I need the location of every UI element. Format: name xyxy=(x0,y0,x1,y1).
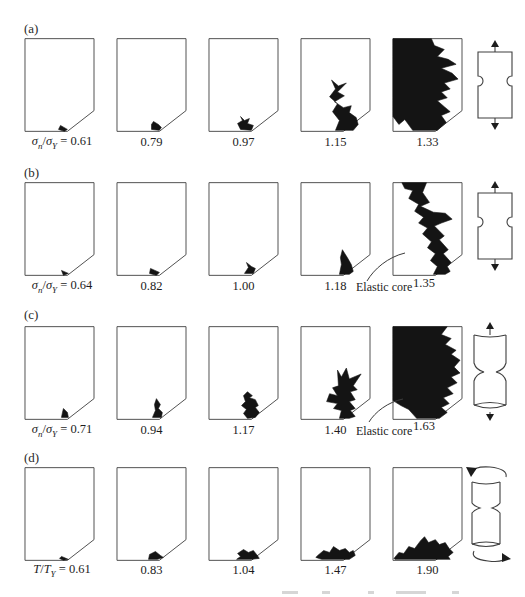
notched-specimen-outline xyxy=(117,183,186,276)
notched-round-bar-torsion-icon xyxy=(464,463,520,565)
down-arrow-icon xyxy=(486,414,494,421)
load-ratio-value: 0.83 xyxy=(116,563,187,578)
notched-specimen-outline xyxy=(301,327,370,420)
panel-b2 xyxy=(116,181,187,277)
double-notched-plate-tension-icon xyxy=(473,180,517,274)
load-ratio-value: 1.47 xyxy=(300,563,371,578)
load-ratio-label-d: T/TY = 0.61 xyxy=(10,562,114,577)
cut-off-caption-mark xyxy=(322,591,330,594)
panel-a2 xyxy=(116,37,187,133)
cut-off-caption-mark xyxy=(396,591,426,594)
torsion-arrowhead-top xyxy=(466,467,477,477)
load-ratio-value: 1.17 xyxy=(208,423,279,438)
notched-specimen-outline xyxy=(209,468,278,561)
panel-c3 xyxy=(208,325,279,421)
torsion-arrowhead-bottom xyxy=(502,553,511,562)
load-ratio-value: 1.33 xyxy=(392,135,463,150)
double-notched-plate-tension-icon xyxy=(473,39,517,133)
panel-a4 xyxy=(300,37,371,133)
row-label-d: (d) xyxy=(24,450,39,466)
plastic-zone-development-figure: (a) (b) (c) (d) σn/σY = 0.61 0.79 0.97 1… xyxy=(0,0,525,597)
row-label-c: (c) xyxy=(24,307,38,323)
panel-d1 xyxy=(24,466,95,562)
load-ratio-label-b: σn/σY = 0.64 xyxy=(10,278,114,293)
panel-c1 xyxy=(24,325,95,421)
notched-specimen-outline xyxy=(301,183,370,276)
notched-specimen-outline xyxy=(117,327,186,420)
load-ratio-value: 1.63 xyxy=(413,419,435,434)
load-ratio-value: 1.15 xyxy=(300,135,371,150)
elastic-core-label: Elastic core xyxy=(356,424,412,439)
panel-a1 xyxy=(24,37,95,133)
load-ratio-value: 0.94 xyxy=(116,423,187,438)
notched-specimen-outline xyxy=(25,183,94,276)
load-ratio-label-a: σn/σY = 0.61 xyxy=(10,134,114,149)
notched-specimen-outline xyxy=(117,468,186,561)
notched-round-bar-tension-icon xyxy=(468,321,516,421)
cut-off-caption-mark xyxy=(452,591,459,594)
torque-symbol: T xyxy=(44,562,51,576)
torsion-arrow-bottom xyxy=(473,551,506,562)
row-label-b: (b) xyxy=(24,165,39,181)
elastic-core-leader-line xyxy=(364,250,408,284)
notched-specimen-outline xyxy=(209,183,278,276)
notched-specimen-outline xyxy=(25,468,94,561)
notched-specimen-outline xyxy=(25,327,94,420)
panel-d5 xyxy=(392,466,463,562)
load-ratio-value: 1.00 xyxy=(208,279,279,294)
panel-d2 xyxy=(116,466,187,562)
load-ratio-value: 0.79 xyxy=(116,135,187,150)
panel-a5 xyxy=(392,37,463,133)
up-arrow-icon xyxy=(486,322,494,329)
down-arrow-icon xyxy=(491,123,499,130)
row-label-a: (a) xyxy=(24,21,38,37)
notched-specimen-outline xyxy=(25,39,94,132)
up-arrow-icon xyxy=(491,181,499,188)
up-arrow-icon xyxy=(491,40,499,47)
panel-c4 xyxy=(300,325,371,421)
panel-c2 xyxy=(116,325,187,421)
panel-b1 xyxy=(24,181,95,277)
notched-specimen-outline xyxy=(301,468,370,561)
notched-specimen-outline xyxy=(117,39,186,132)
load-ratio-value: 0.82 xyxy=(116,279,187,294)
load-ratio-value: 1.90 xyxy=(392,563,463,578)
cut-off-caption-mark xyxy=(368,591,374,594)
elastic-core-leader-line xyxy=(366,397,406,424)
load-ratio-label-c: σn/σY = 0.71 xyxy=(10,422,114,437)
load-ratio-value: 0.97 xyxy=(208,135,279,150)
cut-off-caption-mark xyxy=(282,591,298,594)
panel-d3 xyxy=(208,466,279,562)
panel-b4 xyxy=(300,181,371,277)
notched-specimen-outline xyxy=(209,39,278,132)
load-ratio-value: 1.04 xyxy=(208,563,279,578)
panel-a3 xyxy=(208,37,279,133)
panel-d4 xyxy=(300,466,371,562)
torsion-arrow-top xyxy=(472,467,506,477)
load-ratio-value: 1.35 xyxy=(413,276,435,291)
panel-b3 xyxy=(208,181,279,277)
down-arrow-icon xyxy=(491,264,499,271)
